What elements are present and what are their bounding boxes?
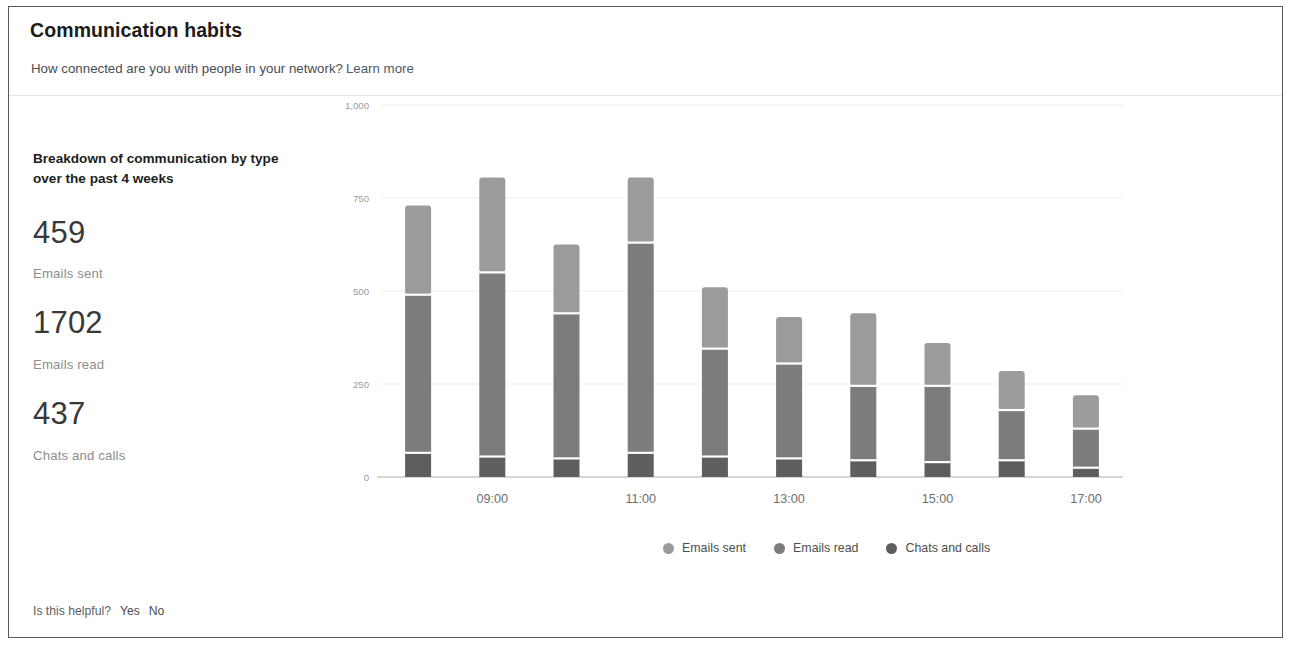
page-title: Communication habits [30,19,242,42]
bar-segment[interactable] [702,457,728,477]
stat-value: 437 [33,398,308,431]
feedback-no-button[interactable]: No [149,604,165,618]
bar-segment[interactable] [776,364,802,459]
feedback-row: Is this helpful?YesNo [33,604,164,618]
x-axis-tick-label: 13:00 [773,492,805,506]
communication-habits-card: Communication habits How connected are y… [8,6,1283,638]
chart-legend: Emails sentEmails readChats and calls [663,541,990,555]
legend-item[interactable]: Chats and calls [886,541,990,555]
bar-segment[interactable] [479,457,505,477]
y-axis-tick-label: 1,000 [345,100,369,111]
bar-segment[interactable] [554,458,580,477]
stat-chats-and-calls: 437 Chats and calls [33,398,308,463]
legend-item[interactable]: Emails sent [663,541,746,555]
y-axis-tick-label: 250 [353,379,369,390]
x-axis-tick-label: 17:00 [1070,492,1102,506]
stat-label: Emails read [33,357,308,372]
bar-group[interactable] [554,245,580,478]
communication-bar-chart: 02505007501,00009:0011:0013:0015:0017:00… [315,97,1175,567]
bar-group[interactable] [479,178,505,477]
bar-segment[interactable] [628,243,654,453]
bar-segment[interactable] [925,462,951,477]
bar-segment[interactable] [702,287,728,348]
x-axis-tick-label: 15:00 [922,492,954,506]
bar-segment[interactable] [405,453,431,477]
bar-segment[interactable] [776,317,802,364]
bar-group[interactable] [1073,395,1099,477]
bar-segment[interactable] [925,386,951,462]
feedback-question: Is this helpful? [33,604,111,618]
y-axis-tick-label: 500 [353,286,369,297]
x-axis-tick-label: 09:00 [477,492,509,506]
subtitle-text: How connected are you with people in you… [31,61,343,76]
stat-label: Chats and calls [33,448,308,463]
card-header: Communication habits How connected are y… [9,7,1282,96]
bar-segment[interactable] [925,343,951,386]
bar-group[interactable] [925,343,951,477]
bar-segment[interactable] [1073,468,1099,477]
card-body: Breakdown of communication by type over … [9,97,1282,638]
bar-segment[interactable] [702,349,728,457]
breakdown-heading: Breakdown of communication by type over … [33,149,295,189]
legend-color-swatch-icon [663,543,674,554]
y-axis-tick-label: 0 [364,472,369,483]
bar-group[interactable] [999,371,1025,477]
stat-label: Emails sent [33,266,308,281]
legend-label: Emails read [793,541,858,555]
legend-label: Chats and calls [905,541,990,555]
bar-segment[interactable] [850,386,876,460]
bar-segment[interactable] [554,313,580,458]
legend-color-swatch-icon [774,543,785,554]
bar-segment[interactable] [628,453,654,477]
x-axis-tick-label: 11:00 [625,492,656,506]
chart-svg: 02505007501,00009:0011:0013:0015:0017:00 [315,97,1175,537]
bar-segment[interactable] [479,272,505,456]
learn-more-link[interactable]: Learn more [346,61,414,76]
bar-group[interactable] [405,205,431,477]
bar-segment[interactable] [999,460,1025,477]
feedback-yes-button[interactable]: Yes [120,604,140,618]
bar-group[interactable] [850,313,876,477]
y-axis-tick-label: 750 [353,193,369,204]
stat-value: 459 [33,217,308,250]
bar-group[interactable] [628,178,654,477]
bar-segment[interactable] [479,178,505,273]
bar-segment[interactable] [999,371,1025,410]
legend-label: Emails sent [682,541,746,555]
bar-group[interactable] [776,317,802,477]
bar-segment[interactable] [850,460,876,477]
bar-segment[interactable] [1073,395,1099,428]
stat-emails-sent: 459 Emails sent [33,217,308,282]
bar-segment[interactable] [999,410,1025,460]
stat-emails-read: 1702 Emails read [33,307,308,372]
bar-segment[interactable] [1073,429,1099,468]
card-subtitle: How connected are you with people in you… [31,61,414,76]
bar-segment[interactable] [405,295,431,453]
bar-segment[interactable] [776,458,802,477]
bar-segment[interactable] [850,313,876,386]
bar-segment[interactable] [628,178,654,243]
bar-segment[interactable] [554,245,580,314]
stat-value: 1702 [33,307,308,340]
legend-item[interactable]: Emails read [774,541,858,555]
bar-segment[interactable] [405,205,431,294]
bar-group[interactable] [702,287,728,477]
stats-panel: Breakdown of communication by type over … [33,149,308,489]
legend-color-swatch-icon [886,543,897,554]
